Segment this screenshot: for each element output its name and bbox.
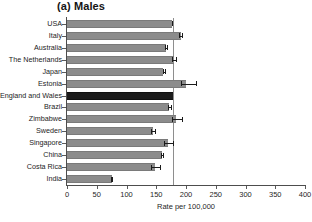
y-axis-tick-label: The Netherlands (9, 56, 62, 63)
chart-title: (a) Males (57, 0, 105, 12)
error-bar-cap (171, 105, 172, 110)
error-bar-cap (196, 81, 197, 86)
error-bar-cap (151, 165, 152, 170)
error-bar-cap (161, 153, 162, 158)
error-bar-cap (172, 21, 173, 26)
y-axis-tick (62, 84, 66, 85)
y-axis-tick (62, 131, 66, 132)
error-bar-cap (112, 177, 113, 182)
error-bar-cap (172, 117, 173, 122)
bar (67, 80, 186, 88)
error-bar-cap (155, 129, 156, 134)
x-axis-tick (97, 186, 98, 189)
y-axis-tick-label: Zimbabwe (29, 115, 62, 122)
y-axis-tick (62, 143, 66, 144)
y-axis-tick-label: Costa Rica (27, 163, 62, 170)
bar (67, 32, 181, 40)
error-bar-cap (165, 69, 166, 74)
error-bar-cap (181, 81, 182, 86)
x-axis-tick-label: 350 (269, 190, 282, 199)
y-axis-tick (62, 179, 66, 180)
y-axis-tick (62, 119, 66, 120)
error-bar-line (172, 119, 182, 120)
error-bar-cap (176, 57, 177, 62)
bar (67, 103, 169, 111)
x-axis-tick-label: 200 (180, 190, 193, 199)
bar (67, 175, 112, 183)
x-axis-tick-label: 250 (209, 190, 222, 199)
x-axis-tick (156, 186, 157, 189)
bar (67, 127, 153, 135)
y-axis-tick (62, 155, 66, 156)
x-axis-tick (275, 186, 276, 189)
y-axis-tick (62, 167, 66, 168)
x-axis-tick (127, 186, 128, 189)
x-axis-tick (246, 186, 247, 189)
y-axis-tick-label: Italy (49, 32, 62, 39)
y-axis-tick-label: Brazil (44, 103, 62, 110)
plot-area (67, 18, 305, 185)
x-axis-tick-label: 0 (65, 190, 69, 199)
error-bar-cap (164, 141, 165, 146)
y-axis-tick-label: USA (47, 20, 62, 27)
chart-figure: (a) Males USAItalyAustraliaThe Netherlan… (0, 0, 312, 222)
y-axis-tick-label: China (43, 151, 62, 158)
bar (67, 44, 166, 52)
error-bar-cap (172, 57, 173, 62)
error-bar-cap (160, 165, 161, 170)
x-axis-tick (216, 186, 217, 189)
bar (67, 56, 174, 64)
bar (67, 92, 173, 100)
error-bar-cap (151, 129, 152, 134)
y-axis-tick (62, 107, 66, 108)
x-axis-tick-label: 400 (299, 190, 312, 199)
y-axis-tick (62, 72, 66, 73)
x-axis-tick-label: 150 (150, 190, 163, 199)
error-bar-line (164, 143, 173, 144)
error-bar-cap (173, 141, 174, 146)
x-axis-label: Rate per 100,000 (157, 202, 215, 211)
error-bar-cap (182, 117, 183, 122)
y-axis-tick-label: England and Wales (0, 92, 62, 99)
x-axis-tick-label: 50 (93, 190, 101, 199)
error-bar-line (181, 84, 196, 85)
x-axis-tick (186, 186, 187, 189)
error-bar-cap (182, 33, 183, 38)
y-axis-tick-label: Singapore (29, 139, 62, 146)
bar (67, 68, 163, 76)
x-axis-tick (67, 186, 68, 189)
y-axis-tick-label: India (46, 175, 62, 182)
bar (67, 151, 162, 159)
y-axis-tick-label: Australia (34, 44, 62, 51)
y-axis-tick (62, 24, 66, 25)
error-bar-cap (163, 153, 164, 158)
y-axis-tick-label: Japan (42, 68, 62, 75)
x-axis-tick-label: 300 (239, 190, 252, 199)
x-axis-tick-label: 100 (120, 190, 133, 199)
y-axis-tick (62, 48, 66, 49)
y-axis-tick-label: Sweden (36, 127, 62, 134)
error-bar-cap (168, 105, 169, 110)
y-axis-tick-label: Estonia (38, 80, 62, 87)
y-axis-tick (62, 96, 66, 97)
x-axis-tick (305, 186, 306, 189)
bar (67, 115, 176, 123)
error-bar-cap (167, 45, 168, 50)
y-axis-tick (62, 36, 66, 37)
bar (67, 139, 168, 147)
error-bar-cap (179, 33, 180, 38)
y-axis-tick (62, 60, 66, 61)
bar (67, 163, 155, 171)
bar (67, 20, 172, 28)
error-bar-line (151, 167, 161, 168)
